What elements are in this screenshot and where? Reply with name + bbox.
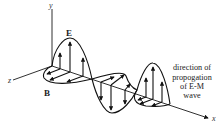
y-axis-label: y: [48, 1, 53, 10]
annotation-line-4: wave: [183, 91, 201, 100]
x-axis-label: x: [211, 114, 216, 123]
magnetic-field-wave: [43, 66, 170, 106]
electric-field-wave: [52, 38, 170, 113]
annotation-line-1: direction of: [173, 63, 211, 72]
annotation-line-3: of E-M: [180, 82, 205, 91]
propagation-annotation: direction of propogation of E-M wave: [172, 63, 212, 100]
z-axis: [13, 66, 52, 80]
z-axis-label: z: [7, 76, 12, 85]
electric-field-label: E: [66, 28, 72, 38]
em-wave-diagram: y z x E B: [0, 0, 223, 132]
magnetic-field-label: B: [44, 88, 50, 98]
annotation-line-2: propogation: [172, 73, 212, 82]
